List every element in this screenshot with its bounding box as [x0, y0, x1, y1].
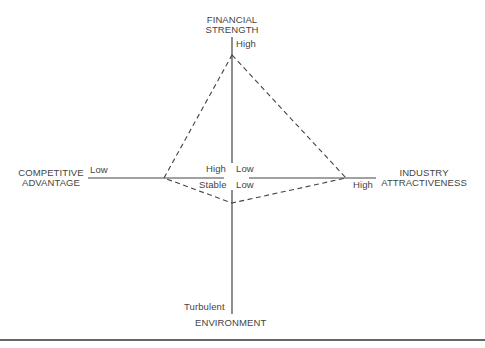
financial-strength-high-label: High [236, 39, 256, 49]
competitive-advantage-title: COMPETITIVE ADVANTAGE [17, 168, 85, 188]
financial-strength-line2: STRENGTH [196, 25, 268, 35]
industry-attractiveness-title: INDUSTRY ATTRACTIVENESS [376, 168, 472, 188]
environment-turbulent-label: Turbulent [184, 302, 225, 312]
center-financial-low-label: Low [236, 164, 254, 174]
environment-title: ENVIRONMENT [195, 318, 266, 328]
industry-attractiveness-high-label: High [353, 180, 373, 190]
center-industry-low-label: Low [236, 180, 254, 190]
competitive-advantage-low-label: Low [90, 165, 108, 175]
financial-strength-title: FINANCIAL STRENGTH [196, 15, 268, 35]
competitive-advantage-line2: ADVANTAGE [17, 178, 85, 188]
center-environment-stable-label: Stable [199, 180, 227, 190]
industry-attractiveness-line2: ATTRACTIVENESS [376, 178, 472, 188]
center-competitive-high-label: High [206, 164, 226, 174]
profile-polygon [164, 55, 346, 203]
